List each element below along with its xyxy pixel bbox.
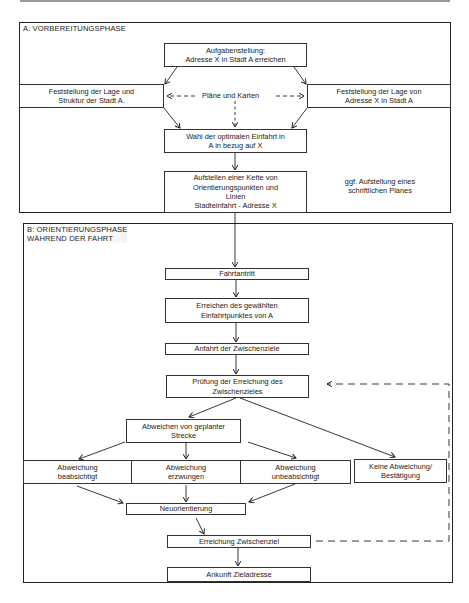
section-a-title: A: VORBEREITUNGSPHASE [23, 24, 126, 33]
node-abweichen-strecke: Abweichen von geplanter Strecke [126, 419, 241, 443]
node-pruefung-erreichung: Prüfung der Erreichung des Zwischenziele… [166, 375, 309, 398]
node-keine-abweichung: Keine Abweichung/ Bestätigung [354, 459, 447, 483]
node-fahrtantritt: Fahrtantritt [165, 268, 309, 280]
note-schriftlicher-plan: ggf. Aufstellung eines schriftlichen Pla… [320, 177, 440, 196]
node-ankunft-zieladresse: Ankunft Zieladresse [167, 567, 311, 582]
node-anfahrt-zwischenziele: Anfahrt der Zwischenziele [165, 343, 309, 355]
node-wahl-einfahrt: Wahl der optimalen Einfahrt in A in bezu… [164, 129, 307, 153]
node-lage-adresse: Feststellung der Lage von Adresse X in S… [307, 84, 451, 108]
node-erreichung-zwischenziel: Erreichung Zwischenziel [167, 535, 311, 548]
node-abweichung-erzwungen: Abweichung erzwungen [132, 461, 240, 483]
section-b-title: B: ORIENTIERUNGSPHASE WÄHREND DER FAHRT [27, 225, 127, 243]
node-abweichung-beabsichtigt: Abweichung beabsichtigt [24, 461, 131, 483]
label-plaene-und-karten: Pläne und Karten [201, 91, 260, 100]
deviation-types-row: Abweichung beabsichtigt Abweichung erzwu… [23, 460, 351, 484]
node-kette-orientierungspunkte: Aufstellen einer Kette von Orientierungs… [164, 171, 307, 213]
node-abweichung-unbeabsichtigt: Abweichung unbeabsichtigt [241, 461, 350, 483]
node-aufgabenstellung: Aufgabenstellung: Adresse X in Stadt A e… [164, 43, 307, 67]
node-erreichen-einfahrtpunkt: Erreichen des gewählten Einfahrtpunktes … [165, 298, 309, 323]
node-lage-stadt: Feststellung der Lage und Struktur der S… [19, 84, 164, 108]
top-rule [20, 0, 450, 2]
node-neuorientierung: Neuorientierung [126, 503, 246, 515]
